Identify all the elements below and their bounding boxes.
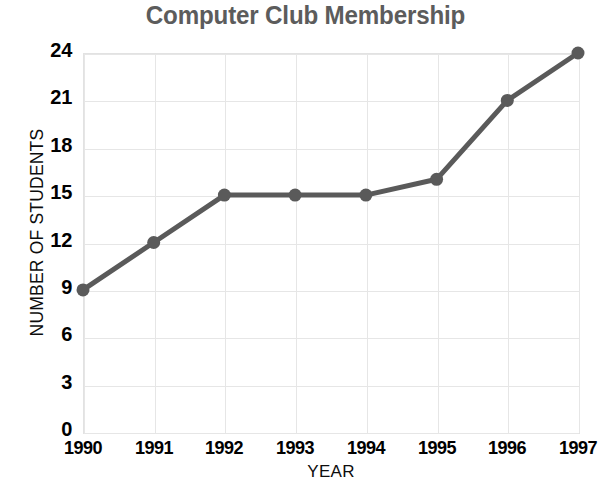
chart-page: Computer Club Membership NUMBER OF STUDE… <box>0 0 611 488</box>
gridline-vertical <box>367 54 368 433</box>
gridline-horizontal <box>84 244 579 245</box>
gridline-horizontal <box>84 54 579 55</box>
gridline-horizontal <box>84 338 579 339</box>
y-tick-label: 15 <box>12 181 72 204</box>
gridline-horizontal <box>84 196 579 197</box>
gridline-vertical <box>438 54 439 433</box>
gridline-horizontal <box>84 291 579 292</box>
gridline-vertical <box>84 54 85 433</box>
y-tick-label: 6 <box>12 323 72 346</box>
x-tick-label: 1994 <box>333 437 400 459</box>
gridline-horizontal <box>84 149 579 150</box>
x-tick-label: 1991 <box>120 437 187 459</box>
x-tick-label: 1992 <box>191 437 258 459</box>
chart-title: Computer Club Membership <box>21 0 589 34</box>
gridline-vertical <box>155 54 156 433</box>
y-tick-label: 18 <box>12 134 72 157</box>
gridline-vertical <box>225 54 226 433</box>
gridline-horizontal <box>84 386 579 387</box>
y-tick-label: 24 <box>12 39 72 62</box>
y-tick-label: 12 <box>12 229 72 252</box>
gridline-vertical <box>579 54 580 433</box>
x-tick-label: 1993 <box>262 437 329 459</box>
gridline-vertical <box>296 54 297 433</box>
gridline-horizontal <box>84 433 579 434</box>
x-axis-title: YEAR <box>83 462 579 482</box>
y-tick-label: 9 <box>12 276 72 299</box>
y-tick-label: 3 <box>12 371 72 394</box>
y-tick-label: 21 <box>12 86 72 109</box>
x-tick-label: 1996 <box>474 437 541 459</box>
plot-area <box>83 53 580 434</box>
x-tick-label: 1995 <box>403 437 470 459</box>
x-tick-label: 1997 <box>545 437 611 459</box>
gridline-horizontal <box>84 101 579 102</box>
gridline-vertical <box>508 54 509 433</box>
x-tick-label: 1990 <box>50 437 117 459</box>
